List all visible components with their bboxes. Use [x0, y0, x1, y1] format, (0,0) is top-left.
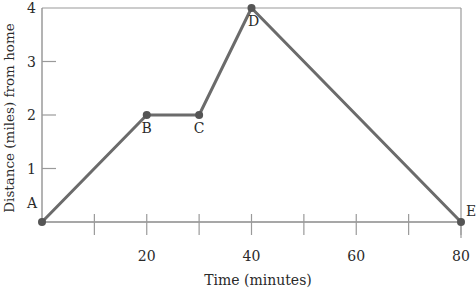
point-label-e: E: [466, 203, 476, 219]
y-tick-label: 2: [27, 107, 36, 123]
x-ticks: [94, 214, 461, 235]
x-tick-label: 20: [138, 248, 156, 264]
data-point-labels: ABCDE: [26, 13, 476, 219]
point-label-a: A: [26, 195, 38, 211]
point-label-c: C: [194, 120, 205, 136]
y-axis-label: Distance (miles) from home: [1, 23, 17, 213]
y-tick-label: 4: [27, 0, 36, 16]
y-tick-label: 1: [27, 161, 36, 177]
x-tick-label: 40: [243, 248, 261, 264]
point-label-d: D: [248, 13, 259, 29]
data-point-b: [143, 111, 151, 119]
data-point-e: [457, 218, 465, 226]
x-tick-label: 80: [452, 248, 470, 264]
x-axis-label: Time (minutes): [204, 272, 312, 288]
point-label-b: B: [142, 120, 152, 136]
y-tick-labels: 1234: [27, 0, 36, 177]
x-tick-labels: 20406080: [138, 248, 470, 264]
data-point-a: [38, 218, 46, 226]
series-line: [42, 8, 461, 222]
x-tick-label: 60: [347, 248, 365, 264]
distance-time-chart: 20406080 1234 ABCDE Time (minutes) Dista…: [0, 0, 476, 290]
y-ticks: [42, 62, 56, 169]
data-point-markers: [38, 4, 465, 226]
data-point-d: [248, 4, 256, 12]
data-point-c: [195, 111, 203, 119]
y-tick-label: 3: [27, 54, 36, 70]
